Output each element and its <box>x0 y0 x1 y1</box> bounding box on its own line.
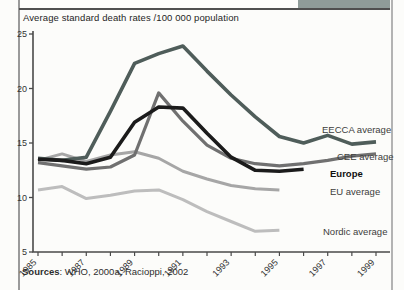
sources-text: : WHO, 2000a; Racioppi, 2002 <box>60 266 189 277</box>
y-axis-tick-label: 20 <box>17 84 27 94</box>
axes <box>33 31 390 252</box>
y-axis-tick-label: 25 <box>17 29 27 39</box>
sources-label: Sources <box>22 266 60 277</box>
x-axis-tick-label: 1999 <box>355 257 376 278</box>
death-rates-chart: 5101520251985198719891991199319951997199… <box>0 0 404 290</box>
x-axis-tick-label: 1995 <box>259 257 280 278</box>
y-axis-tick-label: 10 <box>17 193 27 203</box>
legend-nordic-average: Nordic average <box>323 226 387 237</box>
legend-eu-average: EU average <box>330 186 380 197</box>
x-axis-tick-label: 1997 <box>307 257 328 278</box>
series-europe <box>38 107 304 171</box>
sources-note: Sources: WHO, 2000a; Racioppi, 2002 <box>22 266 188 277</box>
y-axis-tick-label: 5 <box>22 247 27 257</box>
legend-cee-average: CEE average <box>337 151 394 162</box>
legend-eecca-average: EECCA average <box>322 124 391 135</box>
legend-europe: Europe <box>330 168 363 179</box>
series-nordic-average <box>38 187 279 232</box>
x-axis-tick-label: 1993 <box>210 257 231 278</box>
y-axis-tick-label: 15 <box>17 138 27 148</box>
